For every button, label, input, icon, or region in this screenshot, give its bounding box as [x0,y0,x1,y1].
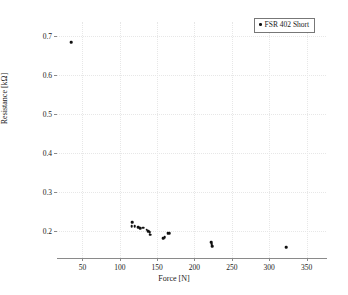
y-tick-label: 0.4 [43,148,52,157]
legend-marker-icon [259,23,262,26]
x-tick [120,258,121,261]
data-point [149,233,152,236]
x-tick [269,258,270,261]
x-tick-label: 150 [152,263,163,272]
x-tick-label: 200 [189,263,200,272]
gridline-vertical [82,22,84,258]
gridline-vertical [307,22,309,258]
y-tick [54,192,57,193]
gridline-horizontal [57,153,326,155]
gridline-vertical [157,22,159,258]
gridline-vertical [232,22,234,258]
gridline-vertical [194,22,196,258]
data-point [131,221,134,224]
x-tick [232,258,233,261]
data-point [142,226,145,229]
data-point [163,236,166,239]
y-tick-label: 0.2 [43,226,52,235]
data-point [285,246,288,249]
x-tick-label: 300 [264,263,275,272]
x-tick [307,258,308,261]
y-tick [54,114,57,115]
plot-area: 0.20.30.40.50.60.7 50100150200250300350 [57,22,326,258]
gridline-horizontal [57,231,326,233]
legend-entry-label: FSR 402 Short [265,21,310,29]
gridline-vertical [120,22,122,258]
y-tick-label: 0.3 [43,187,52,196]
x-tick-label: 250 [226,263,237,272]
gridline-horizontal [57,75,326,77]
x-tick [82,258,83,261]
y-tick [54,36,57,37]
data-point [168,232,171,235]
y-tick [54,75,57,76]
x-tick-label: 50 [79,263,87,272]
data-point [133,225,136,228]
x-tick-label: 350 [301,263,312,272]
y-axis-label: Resistance [kΩ] [0,19,9,179]
data-point [70,41,73,44]
chart-legend: FSR 402 Short [254,18,315,33]
chart-figure: 0.20.30.40.50.60.7 50100150200250300350 … [0,0,348,295]
x-axis-line [57,258,327,259]
gridline-horizontal [57,36,326,38]
y-tick-label: 0.6 [43,70,52,79]
x-axis-label: Force [N] [0,274,348,283]
x-tick-label: 100 [114,263,125,272]
x-tick [157,258,158,261]
x-tick [194,258,195,261]
gridline-vertical [269,22,271,258]
data-point [211,245,214,248]
y-tick [54,231,57,232]
y-tick-label: 0.7 [43,31,52,40]
gridline-horizontal [57,114,326,116]
y-tick-label: 0.5 [43,109,52,118]
y-tick [54,153,57,154]
gridline-horizontal [57,192,326,194]
